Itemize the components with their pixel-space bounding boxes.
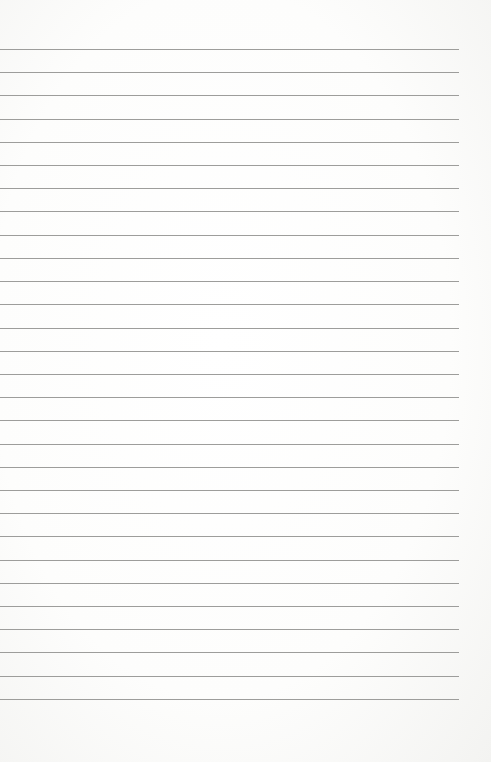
ruled-line — [0, 374, 459, 375]
ruled-line — [0, 444, 459, 445]
ruled-line — [0, 165, 459, 166]
ruled-line — [0, 490, 459, 491]
ruled-line — [0, 560, 459, 561]
ruled-line — [0, 420, 459, 421]
ruled-line — [0, 304, 459, 305]
ruled-line — [0, 72, 459, 73]
ruled-line — [0, 583, 459, 584]
ruled-line — [0, 699, 459, 700]
ruled-line — [0, 281, 459, 282]
ruled-line — [0, 211, 459, 212]
ruled-line — [0, 119, 459, 120]
ruled-line — [0, 95, 459, 96]
ruled-line — [0, 235, 459, 236]
ruled-line — [0, 676, 459, 677]
ruled-line — [0, 188, 459, 189]
ruled-line — [0, 142, 459, 143]
ruled-line — [0, 397, 459, 398]
ruled-line — [0, 328, 459, 329]
ruled-line — [0, 606, 459, 607]
ruled-line — [0, 536, 459, 537]
ruled-line — [0, 49, 459, 50]
ruled-line — [0, 351, 459, 352]
lined-paper-page — [0, 0, 491, 762]
ruled-line — [0, 513, 459, 514]
ruled-line — [0, 629, 459, 630]
ruled-line — [0, 258, 459, 259]
ruled-line — [0, 652, 459, 653]
ruled-line — [0, 467, 459, 468]
